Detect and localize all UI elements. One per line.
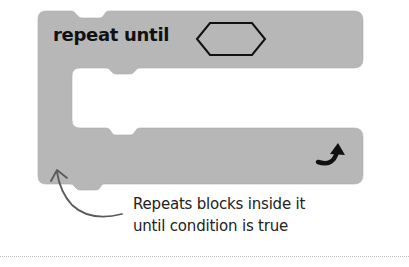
caption-line-1: Repeats blocks inside it: [133, 193, 305, 215]
caption-line-2: until condition is true: [133, 215, 305, 237]
annotation-caption: Repeats blocks inside it until condition…: [133, 193, 305, 237]
divider: [0, 256, 409, 257]
condition-slot-hexagon[interactable]: [197, 23, 265, 55]
block-label: repeat until: [53, 24, 169, 45]
